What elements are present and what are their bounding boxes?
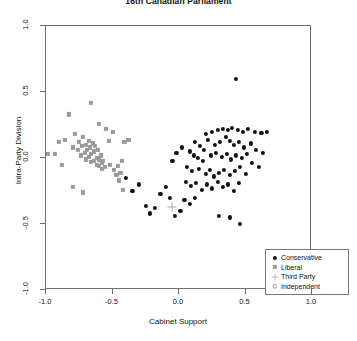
data-point-conservative bbox=[198, 144, 202, 148]
data-point-liberal bbox=[80, 144, 84, 148]
data-point-conservative bbox=[226, 128, 230, 132]
data-point-liberal bbox=[82, 151, 86, 155]
data-point-conservative bbox=[170, 159, 174, 163]
data-point-liberal bbox=[73, 132, 77, 136]
data-point-liberal bbox=[71, 185, 75, 189]
data-point-conservative bbox=[253, 130, 257, 134]
data-point-liberal bbox=[76, 148, 80, 152]
data-point-conservative bbox=[185, 165, 189, 169]
data-point-conservative bbox=[206, 137, 210, 141]
legend-item-independent[interactable]: Independent bbox=[270, 282, 345, 292]
data-point-conservative bbox=[148, 211, 152, 215]
y-tick-mark bbox=[40, 223, 45, 224]
data-point-conservative bbox=[259, 131, 263, 135]
data-point-conservative bbox=[238, 165, 242, 169]
data-point-liberal bbox=[96, 148, 100, 152]
y-tick-mark bbox=[40, 25, 45, 26]
y-tick-mark bbox=[40, 289, 45, 290]
data-point-conservative bbox=[137, 182, 141, 186]
y-tick-mark bbox=[40, 91, 45, 92]
data-point-liberal bbox=[93, 144, 97, 148]
scatter-plot-figure: 16th Canadian Parliament Cabinet Support… bbox=[0, 0, 357, 341]
data-point-conservative bbox=[164, 185, 168, 189]
data-point-liberal bbox=[88, 145, 92, 149]
data-point-conservative bbox=[261, 151, 265, 155]
data-point-conservative bbox=[196, 156, 200, 160]
data-point-conservative bbox=[144, 203, 148, 207]
data-point-conservative bbox=[239, 156, 243, 160]
data-point-liberal bbox=[104, 127, 108, 131]
data-point-conservative bbox=[223, 135, 227, 139]
data-point-conservative bbox=[214, 151, 218, 155]
data-point-conservative bbox=[153, 206, 157, 210]
legend-item-liberal[interactable]: Liberal bbox=[270, 263, 345, 273]
data-point-liberal bbox=[63, 137, 67, 141]
data-point-conservative bbox=[204, 132, 208, 136]
legend-label: Independent bbox=[281, 282, 320, 292]
data-point-conservative bbox=[237, 181, 241, 185]
data-point-conservative bbox=[130, 189, 134, 193]
data-point-conservative bbox=[168, 196, 172, 200]
data-point-conservative bbox=[192, 153, 196, 157]
data-point-liberal bbox=[46, 152, 49, 156]
data-point-conservative bbox=[225, 152, 229, 156]
filled-circle-icon bbox=[270, 253, 281, 263]
data-point-liberal bbox=[78, 153, 82, 157]
data-point-liberal bbox=[97, 122, 101, 126]
data-point-liberal bbox=[85, 148, 89, 152]
page-title: 16th Canadian Parliament bbox=[0, 0, 357, 6]
data-point-liberal bbox=[94, 163, 98, 167]
legend-label: Third Party bbox=[281, 272, 315, 282]
data-point-conservative bbox=[230, 126, 234, 130]
data-point-liberal bbox=[114, 173, 118, 177]
data-point-liberal bbox=[101, 159, 105, 163]
data-point-conservative bbox=[238, 222, 242, 226]
open-circle-icon bbox=[270, 282, 281, 292]
y-tick-label: -1.0 bbox=[21, 277, 30, 301]
x-tick-label: 0.5 bbox=[239, 297, 249, 306]
data-point-liberal bbox=[126, 137, 130, 141]
data-point-conservative bbox=[180, 145, 184, 149]
y-tick-label: -0.5 bbox=[21, 211, 30, 235]
data-point-liberal bbox=[110, 130, 114, 134]
data-point-liberal bbox=[92, 159, 96, 163]
legend-item-third-party[interactable]: Third Party bbox=[270, 272, 345, 282]
data-point-conservative bbox=[215, 180, 219, 184]
data-point-conservative bbox=[193, 196, 197, 200]
data-point-liberal bbox=[84, 157, 88, 161]
legend-item-conservative[interactable]: Conservative bbox=[270, 253, 345, 263]
data-point-conservative bbox=[213, 143, 217, 147]
data-point-conservative bbox=[254, 148, 258, 152]
data-point-conservative bbox=[231, 143, 235, 147]
data-point-liberal bbox=[89, 152, 93, 156]
data-point-liberal bbox=[81, 190, 85, 194]
data-point-conservative bbox=[257, 165, 261, 169]
x-tick-mark bbox=[178, 289, 179, 294]
data-point-conservative bbox=[188, 202, 192, 206]
data-point-conservative bbox=[234, 153, 238, 157]
data-point-liberal bbox=[81, 135, 85, 139]
data-point-conservative bbox=[124, 176, 128, 180]
data-point-conservative bbox=[229, 157, 233, 161]
data-point-liberal bbox=[106, 139, 110, 143]
data-point-conservative bbox=[217, 170, 221, 174]
data-point-conservative bbox=[234, 77, 238, 81]
data-point-liberal bbox=[108, 163, 112, 167]
data-point-conservative bbox=[207, 168, 211, 172]
data-point-conservative bbox=[190, 169, 194, 173]
data-point-conservative bbox=[243, 172, 247, 176]
data-point-liberal bbox=[86, 139, 90, 143]
y-tick-label: 1.0 bbox=[21, 13, 30, 37]
y-tick-mark bbox=[40, 157, 45, 158]
data-point-conservative bbox=[201, 159, 205, 163]
data-point-liberal bbox=[71, 145, 75, 149]
data-point-liberal bbox=[94, 156, 98, 160]
data-point-liberal bbox=[122, 140, 126, 144]
data-point-conservative bbox=[227, 139, 231, 143]
data-point-liberal bbox=[98, 153, 102, 157]
data-point-liberal bbox=[86, 155, 90, 159]
data-point-conservative bbox=[173, 214, 177, 218]
data-point-conservative bbox=[242, 145, 246, 149]
data-point-conservative bbox=[221, 185, 225, 189]
plus-icon bbox=[270, 272, 281, 282]
